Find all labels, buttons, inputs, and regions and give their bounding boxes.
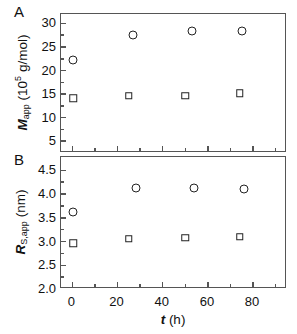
- x-tick-panel-A: [72, 146, 74, 151]
- x-tick-panel-A: [162, 146, 164, 151]
- plot-area-panel-a: [60, 13, 286, 152]
- y-tick-label-panel-A: 10: [16, 110, 56, 123]
- data-point-open-circle-panel-B: [190, 184, 199, 193]
- y-tick-panel-B: [61, 193, 66, 195]
- y-tick-panel-A: [61, 70, 66, 72]
- y-tick-label-panel-B: 4.5: [16, 163, 56, 176]
- y-minor-tick-panel-A: [61, 34, 64, 36]
- x-tick-panel-B: [117, 282, 119, 287]
- y-tick-panel-A: [61, 140, 66, 142]
- data-point-open-circle-panel-B: [240, 185, 249, 194]
- y-minor-tick-panel-B: [61, 205, 64, 207]
- data-point-open-square-panel-B: [182, 234, 190, 242]
- x-minor-tick-panel-B: [230, 284, 232, 287]
- scientific-figure: A B Mapp (105 g/mol) RS,app (nm) t (h) 5…: [0, 0, 297, 334]
- x-minor-tick-panel-A: [185, 148, 187, 151]
- y-minor-tick-panel-A: [61, 82, 64, 84]
- y-tick-panel-B: [61, 265, 66, 267]
- y-tick-panel-A: [61, 93, 66, 95]
- y-tick-panel-B: [61, 170, 66, 172]
- y-tick-label-panel-B: 4.0: [16, 187, 56, 200]
- x-minor-tick-panel-B: [139, 284, 141, 287]
- y-tick-label-panel-A: 20: [16, 63, 56, 76]
- plot-inner-panel-b: [61, 157, 285, 287]
- data-point-open-circle-panel-A: [69, 55, 78, 64]
- y-tick-panel-B: [61, 217, 66, 219]
- y-minor-tick-panel-B: [61, 253, 64, 255]
- x-minor-tick-panel-A: [230, 148, 232, 151]
- y-tick-label-panel-A: 15: [16, 87, 56, 100]
- data-point-open-circle-panel-A: [188, 26, 197, 35]
- data-point-open-circle-panel-A: [129, 31, 138, 40]
- y-tick-label-panel-A: 5: [16, 134, 56, 147]
- x-tick-label: 80: [245, 295, 259, 308]
- x-tick-panel-B: [252, 282, 254, 287]
- data-point-open-square-panel-A: [125, 92, 133, 100]
- y-tick-label-panel-B: 2.0: [16, 282, 56, 295]
- y-minor-tick-panel-B: [61, 276, 64, 278]
- y-tick-panel-B: [61, 241, 66, 243]
- x-tick-panel-B: [162, 282, 164, 287]
- data-point-open-square-panel-B: [70, 240, 78, 248]
- x-tick-panel-A: [252, 146, 254, 151]
- y-tick-panel-A: [61, 46, 66, 48]
- y-tick-label-panel-A: 25: [16, 39, 56, 52]
- x-minor-tick-panel-B: [94, 284, 96, 287]
- y-minor-tick-panel-B: [61, 229, 64, 231]
- x-tick-panel-B: [207, 282, 209, 287]
- data-point-open-circle-panel-B: [131, 183, 140, 192]
- x-minor-tick-panel-B: [275, 284, 277, 287]
- x-tick-panel-B: [72, 282, 74, 287]
- y-minor-tick-panel-A: [61, 105, 64, 107]
- y-tick-panel-A: [61, 117, 66, 119]
- data-point-open-square-panel-A: [236, 89, 244, 97]
- x-axis-title: t (h): [60, 313, 286, 327]
- x-tick-label: 20: [109, 295, 123, 308]
- x-minor-tick-panel-B: [185, 284, 187, 287]
- plot-area-panel-b: [60, 156, 286, 288]
- y-minor-tick-panel-A: [61, 129, 64, 131]
- x-minor-tick-panel-A: [275, 148, 277, 151]
- data-point-open-square-panel-A: [182, 92, 190, 100]
- x-tick-panel-A: [117, 146, 119, 151]
- plot-inner-panel-a: [61, 14, 285, 151]
- y-axis-title-panel-a: Mapp (105 g/mol): [14, 13, 29, 152]
- x-minor-tick-panel-A: [94, 148, 96, 151]
- y-tick-label-panel-A: 30: [16, 16, 56, 29]
- data-point-open-square-panel-A: [70, 95, 78, 103]
- x-tick-label: 60: [200, 295, 214, 308]
- data-point-open-circle-panel-A: [237, 26, 246, 35]
- y-minor-tick-panel-B: [61, 181, 64, 183]
- y-tick-label-panel-B: 3.0: [16, 234, 56, 247]
- x-minor-tick-panel-A: [139, 148, 141, 151]
- data-point-open-square-panel-B: [236, 233, 244, 241]
- x-tick-label: 0: [68, 295, 75, 308]
- y-tick-label-panel-B: 2.5: [16, 258, 56, 271]
- x-tick-label: 40: [154, 295, 168, 308]
- y-tick-label-panel-B: 3.5: [16, 210, 56, 223]
- y-tick-panel-A: [61, 23, 66, 25]
- data-point-open-circle-panel-B: [69, 208, 78, 217]
- x-tick-panel-A: [207, 146, 209, 151]
- y-minor-tick-panel-A: [61, 58, 64, 60]
- data-point-open-square-panel-B: [125, 235, 133, 243]
